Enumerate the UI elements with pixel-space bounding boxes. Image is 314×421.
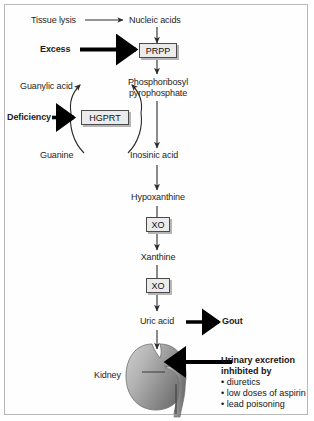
callout-heading-line-2: inhibited by bbox=[221, 366, 306, 377]
label-deficiency: Deficiency bbox=[7, 112, 51, 123]
label-gout: Gout bbox=[222, 316, 243, 327]
label-kidney: Kidney bbox=[94, 370, 121, 381]
callout-item: lead poisoning bbox=[221, 399, 306, 410]
node-prpp-box: PRPP bbox=[139, 43, 177, 58]
node-xo-box-1: XO bbox=[146, 217, 170, 232]
label-xanthine: Xanthine bbox=[141, 252, 176, 263]
callout-item-list: diuretics low doses of aspirin lead pois… bbox=[221, 377, 306, 410]
label-hypoxanthine: Hypoxanthine bbox=[131, 192, 185, 203]
callout-item: low doses of aspirin bbox=[221, 388, 306, 399]
label-excess: Excess bbox=[40, 44, 70, 55]
callout-item: diuretics bbox=[221, 377, 306, 388]
kidney-illustration bbox=[126, 344, 186, 417]
inhibition-callout: Urinary excretion inhibited by diuretics… bbox=[221, 355, 306, 410]
label-pyrophosphate: pyrophosphate bbox=[129, 88, 187, 99]
callout-heading-line-1: Urinary excretion bbox=[221, 355, 306, 366]
label-inosinic-acid: Inosinic acid bbox=[130, 150, 178, 161]
label-guanylic-acid: Guanylic acid bbox=[20, 81, 73, 92]
label-nucleic-acids: Nucleic acids bbox=[129, 15, 181, 26]
label-phosphoribosyl: Phosphoribosyl bbox=[128, 77, 188, 88]
node-xo-box-2: XO bbox=[146, 278, 170, 293]
label-uric-acid: Uric acid bbox=[140, 316, 174, 327]
pathway-diagram-figure: Tissue lysis Nucleic acids Excess PRPP P… bbox=[0, 0, 314, 421]
label-guanine: Guanine bbox=[40, 150, 73, 161]
label-tissue-lysis: Tissue lysis bbox=[31, 15, 76, 26]
node-hgprt-box: HGPRT bbox=[81, 110, 129, 125]
